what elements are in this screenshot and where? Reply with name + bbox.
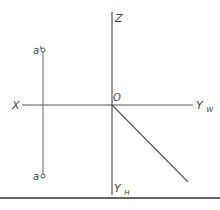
yh-subscript: H (124, 189, 130, 197)
yw-subscript: W (206, 106, 214, 114)
yh-axis-label: Y H (114, 182, 130, 197)
x-axis-label: X (11, 99, 20, 112)
point-a-marker (41, 174, 45, 178)
z-axis-label: Z (114, 12, 123, 25)
yh-main: Y (114, 182, 122, 195)
diagonal-transfer-line (112, 105, 188, 182)
yw-axis-label: Y W (196, 99, 214, 114)
origin-label: O (113, 92, 121, 103)
point-a-prime-label: a' (33, 45, 42, 56)
point-a-label: a (33, 171, 39, 182)
projection-diagram: Z O X Y W Y H a' a (0, 0, 220, 210)
yw-main: Y (196, 99, 204, 112)
